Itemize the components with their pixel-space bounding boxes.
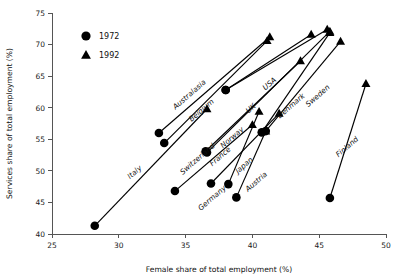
marker-1992-finland [361, 79, 370, 87]
marker-1972-japan [224, 180, 233, 189]
marker-1972-italy [90, 221, 99, 230]
marker-1992-sweden [336, 37, 345, 45]
marker-1972-germany [207, 179, 216, 188]
chart-container: 4045505560657075253035404550 ItalyAustra… [0, 0, 404, 279]
x-tick-label: 40 [248, 241, 258, 250]
marker-1972-switzerland [171, 187, 180, 196]
x-axis-title: Female share of total employment (%) [146, 265, 292, 274]
y-tick-label: 70 [35, 40, 45, 49]
point-label-belgium: Belgium [187, 97, 216, 124]
y-axis-title: Services share of total employment (%) [5, 48, 14, 199]
connector-sweden [266, 41, 341, 131]
y-tick-label: 60 [35, 104, 45, 113]
x-tick-label: 30 [114, 241, 124, 250]
point-label-usa: USA [261, 75, 278, 92]
marker-1992-uk [307, 30, 316, 38]
y-tick-label: 75 [35, 9, 45, 18]
x-tick-label: 35 [181, 241, 191, 250]
marker-1972-sweden [261, 127, 270, 136]
y-tick-label: 65 [35, 72, 45, 81]
legend-marker-triangle [81, 50, 91, 59]
legend: 19721992 [81, 31, 119, 60]
marker-1972-australasia [155, 129, 164, 138]
point-label-finland: Finland [334, 134, 360, 159]
legend-marker-circle [81, 31, 90, 40]
y-tick-label: 40 [35, 230, 45, 239]
legend-label-1992: 1992 [99, 51, 119, 60]
connector-japan [228, 112, 259, 185]
y-tick-label: 45 [35, 198, 45, 207]
point-label-sweden: Sweden [304, 83, 332, 109]
legend-label-1972: 1972 [99, 32, 119, 41]
marker-1972-finland [326, 194, 335, 203]
marker-1972-usa [221, 86, 230, 95]
connector-australasia [159, 37, 270, 133]
x-tick-label: 50 [381, 241, 391, 250]
marker-1972-belgium [160, 139, 169, 148]
y-tick-label: 50 [35, 167, 45, 176]
x-tick-label: 25 [47, 241, 57, 250]
x-tick-label: 45 [314, 241, 324, 250]
y-tick-label: 55 [35, 135, 45, 144]
marker-1972-austria [232, 193, 241, 202]
series-layer [90, 25, 370, 230]
scatter-plot: 4045505560657075253035404550 ItalyAustra… [0, 0, 404, 279]
